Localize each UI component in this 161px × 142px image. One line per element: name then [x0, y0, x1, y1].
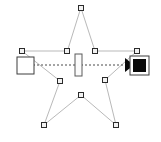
vector-drawing-surface[interactable]: [0, 0, 161, 142]
node-handle-star-inner-right[interactable]: [103, 78, 108, 83]
node-handle-star-bottom-right[interactable]: [114, 123, 119, 128]
node-handle-star-top[interactable]: [79, 6, 84, 11]
node-handle-star-inner-right-up[interactable]: [93, 49, 98, 54]
start-square-marker[interactable]: [17, 57, 34, 74]
node-handle-star-inner-left[interactable]: [58, 79, 63, 84]
end-square-marker-fill: [133, 59, 146, 72]
node-handle-star-right-outer[interactable]: [135, 49, 140, 54]
node-handle-star-bottom-left[interactable]: [42, 123, 47, 128]
node-handle-star-inner-bottom[interactable]: [79, 93, 84, 98]
node-handle-star-inner-left-up[interactable]: [65, 49, 70, 54]
node-handle-star-left-outer[interactable]: [20, 49, 25, 54]
vector-editor-canvas[interactable]: [0, 0, 161, 142]
mid-rectangle-marker[interactable]: [75, 54, 82, 76]
